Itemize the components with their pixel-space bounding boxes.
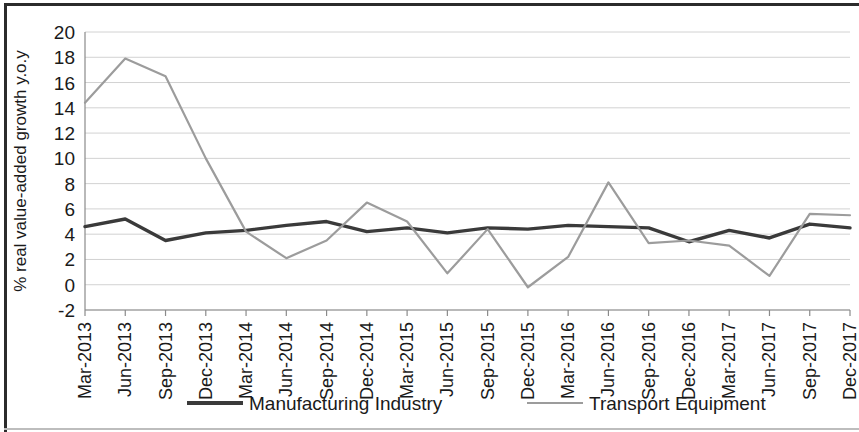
x-tick-label: Jun-2013: [115, 322, 135, 397]
x-tick-label: Dec-2014: [357, 322, 377, 400]
axis-lines-group: [85, 32, 850, 310]
legend-label-1: Manufacturing Industry: [249, 393, 443, 414]
series-line-2: [85, 59, 850, 288]
x-tick-label: Mar-2017: [719, 322, 739, 399]
x-tick-label: Mar-2016: [558, 322, 578, 399]
y-tick-label: 6: [64, 199, 75, 220]
y-tick-label: 8: [64, 174, 75, 195]
y-tick-label: 0: [64, 275, 75, 296]
y-tick-label: 20: [54, 22, 75, 43]
y-axis-title-group: % real value-added growth y.o.y: [11, 50, 30, 292]
x-tick-label: Dec-2016: [679, 322, 699, 400]
chart-figure: -202468101214161820 Mar-2013Jun-2013Sep-…: [0, 0, 859, 432]
y-tick-label: 2: [64, 249, 75, 270]
x-tick-label: Jun-2017: [759, 322, 779, 397]
y-tick-label: 16: [54, 73, 75, 94]
y-tick-labels-group: -202468101214161820: [54, 22, 76, 321]
x-tick-label: Sep-2015: [478, 322, 498, 400]
y-tick-label: 14: [54, 98, 76, 119]
x-tick-label: Sep-2017: [800, 322, 820, 400]
x-tick-label: Dec-2015: [518, 322, 538, 400]
x-tick-label: Mar-2014: [236, 322, 256, 399]
x-tickmarks-group: [85, 310, 850, 316]
x-tick-label: Jun-2015: [437, 322, 457, 397]
y-tick-label: 12: [54, 123, 75, 144]
x-tick-label: Sep-2013: [156, 322, 176, 400]
series-line-1: [85, 219, 850, 242]
x-tick-labels-group: Mar-2013Jun-2013Sep-2013Dec-2013Mar-2014…: [75, 322, 859, 400]
x-tick-label: Jun-2016: [598, 322, 618, 397]
y-tick-label: 4: [64, 224, 75, 245]
x-tick-label: Mar-2015: [397, 322, 417, 399]
legend-label-2: Transport Equipment: [589, 393, 766, 414]
line-chart-svg: -202468101214161820 Mar-2013Jun-2013Sep-…: [0, 0, 859, 432]
x-tick-label: Mar-2013: [75, 322, 95, 399]
y-tick-label: -2: [58, 300, 75, 321]
y-tick-label: 10: [54, 148, 75, 169]
x-tick-label: Dec-2013: [196, 322, 216, 400]
y-tick-label: 18: [54, 47, 75, 68]
x-tick-label: Sep-2014: [317, 322, 337, 400]
x-tick-label: Dec-2017: [840, 322, 859, 400]
y-axis-title: % real value-added growth y.o.y: [11, 50, 30, 292]
x-tick-label: Jun-2014: [276, 322, 296, 397]
x-tick-label: Sep-2016: [639, 322, 659, 400]
gridlines-group: [85, 32, 850, 310]
data-series-group: [85, 59, 850, 288]
